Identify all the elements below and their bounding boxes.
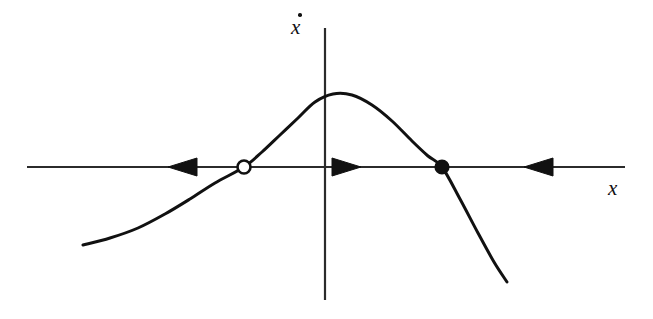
flow-arrow-middle <box>332 158 361 176</box>
y-axis-label: x <box>291 17 300 38</box>
x-axis-label-text: x <box>608 176 617 200</box>
flow-arrow-right <box>524 158 553 176</box>
xdot-curve <box>83 93 507 282</box>
phase-line-figure: x x <box>0 0 653 319</box>
phase-portrait-canvas <box>0 0 653 319</box>
y-axis-label-text: x <box>291 15 300 39</box>
dot-accent-icon <box>298 13 302 17</box>
flow-arrow-left <box>168 158 197 176</box>
x-axis-label: x <box>608 178 617 199</box>
unstable-fixed-point-marker <box>238 161 251 174</box>
stable-fixed-point-marker <box>436 161 449 174</box>
